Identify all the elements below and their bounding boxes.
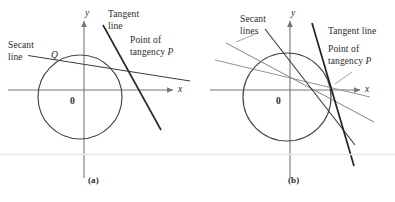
panel-a-point-q-label: Q (51, 50, 58, 60)
panel-b-caption: (b) (288, 176, 299, 186)
panel-b-secant-label-line2: lines (240, 26, 258, 36)
panel-a-tangency-symbol: P (168, 47, 174, 57)
panel-b-tangency-word: tangency (328, 56, 363, 66)
panel-a-origin-label: 0 (70, 96, 75, 106)
panel-a-y-axis-label: y (85, 8, 89, 18)
panel-a-tangency-label-line2: tangency P (130, 47, 173, 57)
panel-a-x-axis-label: x (178, 84, 182, 94)
panel-b-secant-label-line1: Secant (240, 14, 266, 24)
panel-b-y-axis-label: y (291, 8, 295, 18)
panel-b-tangent-label: Tangent line (328, 26, 376, 36)
panel-a-caption: (a) (88, 176, 99, 186)
panel-b-tangency-leader-line (335, 72, 352, 84)
figure-container: Secant line Q Tangent line Point of tang… (0, 0, 395, 202)
panel-b-tangency-label-line2: tangency P (328, 56, 371, 66)
panel-b-tangency-symbol: P (366, 56, 372, 66)
panel-b-x-axis-label: x (365, 84, 369, 94)
panel-a-tangent-label-line2: line (108, 21, 123, 31)
panel-a-tangency-label-line1: Point of (130, 35, 161, 45)
panel-a-secant-label-line1: Secant (8, 40, 34, 50)
panel-b-tangency-label-line1: Point of (328, 44, 359, 54)
panel-a-secant-label-line2: line (8, 52, 23, 62)
panel-a-tangency-word: tangency (130, 47, 165, 57)
panel-b-origin-label: 0 (276, 96, 281, 106)
panel-a-circle (38, 55, 122, 139)
panel-a-tangent-label-line1: Tangent (108, 9, 139, 19)
